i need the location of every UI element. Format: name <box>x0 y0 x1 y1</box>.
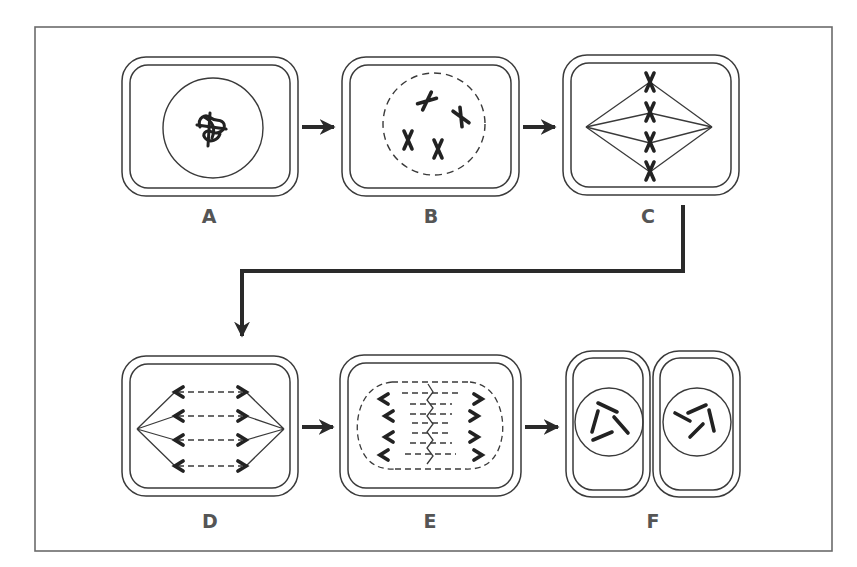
label-c: C <box>641 207 655 226</box>
daughter-cell-left <box>566 351 650 497</box>
mitosis-diagram: A B C D E F <box>0 0 857 567</box>
daughter-cell-right <box>653 351 740 497</box>
spindle-fibers <box>137 392 284 466</box>
chromosome-icon <box>592 403 628 440</box>
chromosome-icon <box>646 73 654 180</box>
cell-c <box>563 55 739 195</box>
separating-chromatids-dashes <box>178 392 242 466</box>
cell-e <box>340 355 521 496</box>
cleavage-line <box>427 384 433 464</box>
chromatin-icon <box>197 113 226 146</box>
label-b: B <box>424 207 438 226</box>
label-f: F <box>647 512 660 531</box>
label-d: D <box>202 512 218 531</box>
spindle-fibers <box>586 82 712 172</box>
chromosome-icon <box>404 92 469 158</box>
outer-frame <box>35 27 832 551</box>
label-e: E <box>424 512 437 531</box>
cell-a <box>122 57 298 196</box>
chromosome-icon <box>675 405 714 437</box>
cell-b <box>342 57 519 196</box>
cell-d <box>122 356 298 496</box>
chromatid-icon <box>175 387 246 471</box>
cell-f <box>566 351 740 497</box>
label-a: A <box>202 207 217 226</box>
arrow-c-to-d <box>242 205 683 336</box>
